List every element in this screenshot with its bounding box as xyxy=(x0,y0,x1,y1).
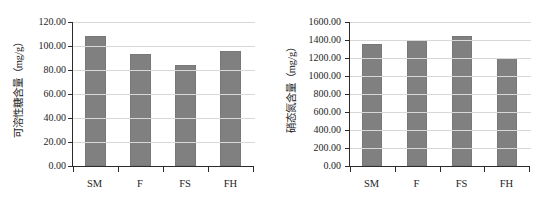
y-axis-tick-mark xyxy=(345,58,350,59)
y-axis-tick-mark xyxy=(345,148,350,149)
x-axis-tick-mark xyxy=(440,166,441,172)
x-axis-tick-mark xyxy=(484,166,485,172)
figure-two-bar-charts: 可溶性糖含量（mg/g） 0.0020.0040.0060.0080.00100… xyxy=(0,0,543,209)
chart-panel-nitrate-nitrogen: 硝态氮含量（mg/g） 0.00200.00400.00600.00800.00… xyxy=(271,0,543,209)
gridline xyxy=(73,22,255,23)
y-axis-tick-label: 800.00 xyxy=(314,89,342,99)
y-axis-tick-mark xyxy=(68,142,73,143)
x-axis-category-label: F xyxy=(117,174,162,196)
gridline xyxy=(350,40,531,41)
y-axis-tick-mark xyxy=(68,46,73,47)
x-axis-tick-mark xyxy=(163,166,164,172)
x-axis-category-labels-left: SMFFSFH xyxy=(72,174,253,196)
y-axis-tick-mark xyxy=(68,70,73,71)
gridline xyxy=(350,94,531,95)
x-axis-category-label: F xyxy=(394,174,439,196)
gridline xyxy=(350,112,531,113)
y-axis-tick-mark xyxy=(68,22,73,23)
gridline xyxy=(350,58,531,59)
x-axis-tick-mark xyxy=(395,166,396,172)
x-axis-category-label: SM xyxy=(349,174,394,196)
y-axis-tick-label: 0.00 xyxy=(49,161,67,171)
plot-area-right xyxy=(349,22,529,167)
x-axis-category-label: FH xyxy=(208,174,253,196)
y-axis-tick-label: 40.00 xyxy=(44,113,67,123)
y-axis-tick-label: 600.00 xyxy=(314,107,342,117)
y-axis-tick-label: 1600.00 xyxy=(309,17,342,27)
y-axis-tick-label: 80.00 xyxy=(44,65,67,75)
x-axis-tick-mark xyxy=(350,166,351,172)
y-axis-tick-label: 120.00 xyxy=(39,17,67,27)
gridline xyxy=(350,130,531,131)
y-axis-tick-label: 1400.00 xyxy=(309,35,342,45)
y-axis-tick-mark xyxy=(345,112,350,113)
gridline xyxy=(73,46,255,47)
y-axis-tick-label: 1200.00 xyxy=(309,53,342,63)
y-axis-tick-label: 200.00 xyxy=(314,143,342,153)
y-axis-tick-label: 100.00 xyxy=(39,41,67,51)
y-axis-tick-labels-left: 0.0020.0040.0060.0080.00100.00120.00 xyxy=(18,0,70,175)
plot-area-left xyxy=(72,22,253,167)
x-axis-category-labels-right: SMFFSFH xyxy=(349,174,529,196)
x-axis-category-label: FH xyxy=(484,174,529,196)
bar-FS xyxy=(175,65,195,166)
x-axis-category-label: FS xyxy=(163,174,208,196)
x-axis-tick-mark xyxy=(253,166,254,172)
bar-SM xyxy=(85,36,105,166)
y-axis-tick-mark xyxy=(345,22,350,23)
y-axis-tick-label: 1000.00 xyxy=(309,71,342,81)
y-axis-tick-label: 60.00 xyxy=(44,89,67,99)
y-axis-tick-mark xyxy=(345,76,350,77)
y-axis-tick-mark xyxy=(68,94,73,95)
y-axis-tick-mark xyxy=(345,40,350,41)
x-axis-tick-mark xyxy=(529,166,530,172)
y-axis-tick-labels-right: 0.00200.00400.00600.00800.001000.001200.… xyxy=(293,0,345,175)
x-axis-tick-mark xyxy=(73,166,74,172)
gridline xyxy=(350,22,531,23)
y-axis-tick-label: 20.00 xyxy=(44,137,67,147)
chart-panel-soluble-sugar: 可溶性糖含量（mg/g） 0.0020.0040.0060.0080.00100… xyxy=(0,0,271,209)
gridline xyxy=(73,142,255,143)
bar-FS xyxy=(452,36,472,166)
y-axis-tick-label: 400.00 xyxy=(314,125,342,135)
x-axis-category-label: SM xyxy=(72,174,117,196)
gridline xyxy=(350,148,531,149)
x-axis-tick-mark xyxy=(208,166,209,172)
x-axis-tick-mark xyxy=(118,166,119,172)
gridline xyxy=(73,70,255,71)
gridline xyxy=(73,118,255,119)
y-axis-tick-label: 0.00 xyxy=(324,161,342,171)
gridline xyxy=(350,76,531,77)
x-axis-category-label: FS xyxy=(439,174,484,196)
y-axis-tick-mark xyxy=(345,94,350,95)
y-axis-tick-mark xyxy=(68,118,73,119)
gridline xyxy=(73,94,255,95)
y-axis-tick-mark xyxy=(345,130,350,131)
bar-FH xyxy=(220,51,240,166)
